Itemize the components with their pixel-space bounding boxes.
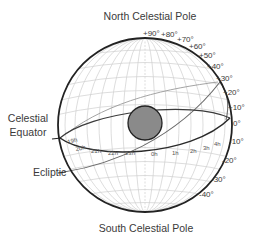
svg-text:0°: 0° — [233, 119, 241, 128]
svg-text:+20°: +20° — [223, 88, 240, 97]
svg-text:+80°: +80° — [161, 30, 178, 39]
svg-text:1h: 1h — [172, 150, 179, 156]
svg-text:3h: 3h — [203, 145, 210, 151]
svg-text:2h: 2h — [190, 148, 197, 154]
svg-text:+10°: +10° — [228, 103, 245, 112]
svg-text:-30°: -30° — [211, 175, 226, 184]
svg-text:+30°: +30° — [216, 74, 233, 83]
svg-text:-10°: -10° — [229, 137, 244, 146]
celestial-equator-label-1: Celestial — [8, 112, 48, 124]
south-pole-label: South Celestial Pole — [99, 222, 194, 234]
svg-text:+40°: +40° — [207, 62, 224, 71]
svg-text:23h: 23h — [125, 150, 135, 156]
celestial-sphere-diagram: North Celestial Pole South Celestial Pol… — [0, 0, 254, 245]
svg-text:0h: 0h — [151, 151, 158, 157]
svg-text:-40°: -40° — [199, 190, 214, 199]
earth-body — [128, 106, 162, 140]
svg-text:20h: 20h — [75, 144, 86, 152]
svg-text:22h: 22h — [108, 150, 118, 156]
svg-text:-20°: -20° — [222, 156, 237, 165]
svg-text:+60°: +60° — [189, 42, 206, 51]
svg-text:+90°: +90° — [143, 29, 160, 38]
svg-text:21h: 21h — [91, 148, 101, 154]
ecliptic-label: Ecliptic — [33, 166, 66, 178]
north-pole-label: North Celestial Pole — [104, 10, 197, 22]
svg-text:4h: 4h — [214, 141, 221, 147]
celestial-equator-label-2: Equator — [10, 126, 47, 138]
svg-text:+50°: +50° — [199, 51, 216, 60]
